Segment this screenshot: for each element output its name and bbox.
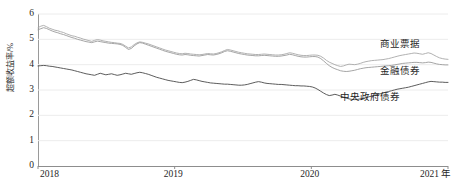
series-label-2: 中央政府债券 <box>340 93 400 103</box>
x-axis-tick-2018: 2018 <box>40 170 59 180</box>
x-axis-tick-2021: 2021 年 <box>420 170 451 180</box>
y-axis-tick-2: 2 <box>4 110 34 120</box>
x-axis-line <box>38 166 448 167</box>
y-axis-tick-3: 3 <box>4 85 34 95</box>
chart-figure: 超额收益率/% 0123456 2018201920202021 年 商业票据金… <box>0 0 464 190</box>
y-axis-tick-group: 0123456 <box>0 0 34 190</box>
y-axis-tick-1: 1 <box>4 136 34 146</box>
x-axis-tick-2019: 2019 <box>164 170 183 180</box>
plot-area <box>38 14 448 166</box>
y-axis-tick-0: 0 <box>4 161 34 171</box>
series-label-1: 金融债券 <box>380 67 420 77</box>
y-axis-tick-6: 6 <box>4 9 34 19</box>
x-axis-tick-2020: 2020 <box>300 170 319 180</box>
y-axis-tick-4: 4 <box>4 60 34 70</box>
y-axis-tick-5: 5 <box>4 34 34 44</box>
series-label-0: 商业票据 <box>380 40 420 50</box>
series-canvas <box>38 14 448 166</box>
